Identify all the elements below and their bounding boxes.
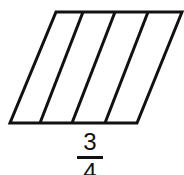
divider-line-3	[105, 12, 148, 123]
fraction-numerator: 3	[72, 130, 108, 154]
fraction-label: 3 4	[72, 130, 108, 175]
divider-line-2	[72, 12, 115, 123]
divider-line-1	[40, 12, 83, 123]
fraction-denominator: 4	[72, 160, 108, 175]
parallelogram-outline	[10, 12, 182, 123]
